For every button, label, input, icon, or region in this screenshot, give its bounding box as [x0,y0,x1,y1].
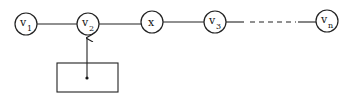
node-v3-subscript: 3 [216,22,221,31]
node-x: x [141,11,163,33]
node-v3: v 3 [204,11,226,33]
node-vn-subscript: n [328,21,333,30]
linked-list-diagram: v 1 v 2 x v 3 v n [0,0,354,101]
node-v2-subscript: 2 [89,24,94,33]
node-v1: v 1 [15,13,37,35]
node-vn: v n [316,10,338,32]
node-v3-label: v [208,14,216,27]
node-v2-label: v [81,16,89,29]
node-x-label: x [148,16,155,29]
node-v1-label: v [19,16,27,29]
node-v1-subscript: 1 [27,24,32,33]
node-vn-label: v [320,13,328,26]
node-v2: v 2 [77,13,99,35]
